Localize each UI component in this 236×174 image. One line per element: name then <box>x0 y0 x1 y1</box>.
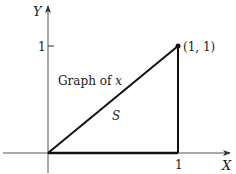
x-axis-label: X <box>221 158 232 173</box>
curve-label-prefix: Graph of <box>58 74 115 88</box>
y-tick-label: 1 <box>38 40 46 54</box>
graph-of-x-line <box>48 46 178 153</box>
point-1-1 <box>176 44 181 49</box>
region-label: S <box>112 109 120 123</box>
curve-label: Graph of x <box>58 74 122 88</box>
curve-label-var: x <box>115 74 122 88</box>
diagram-canvas: Y X 1 1 (1, 1) Graph of x S <box>0 0 236 174</box>
y-axis-label: Y <box>33 4 43 19</box>
point-label: (1, 1) <box>183 40 215 54</box>
x-tick-label: 1 <box>175 158 183 172</box>
